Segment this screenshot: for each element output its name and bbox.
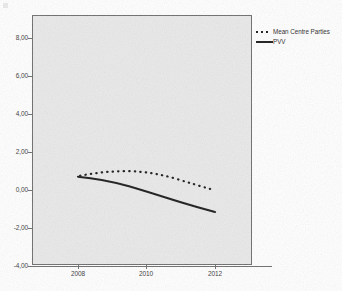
legend-label: Mean Centre Parties <box>273 27 330 36</box>
y-tick-label: 0,00 <box>16 186 28 194</box>
dotted-line-key-icon <box>256 27 273 36</box>
y-tick-label: -4,00 <box>14 262 28 270</box>
line-chart: 8,00 6,00 4,00 2,00 0,00 -2,00 -4,00 200… <box>0 0 342 291</box>
x-axis-ticks <box>79 265 216 269</box>
y-tick-2: 2,00 <box>2 148 28 156</box>
y-tick-label: 8,00 <box>16 34 28 42</box>
y-tick-minus-2: -2,00 <box>2 224 28 232</box>
y-tick-label: 2,00 <box>16 148 28 156</box>
x-tick-2008: 2008 <box>63 270 93 278</box>
y-tick-4: 4,00 <box>2 110 28 118</box>
y-tick-label: 6,00 <box>16 72 28 80</box>
legend-label: PVV <box>273 37 285 46</box>
x-tick-2012: 2012 <box>200 270 230 278</box>
legend-item-mean-centre-parties: Mean Centre Parties <box>256 27 342 36</box>
y-tick-8: 8,00 <box>2 34 28 42</box>
y-tick-label: -2,00 <box>14 224 28 232</box>
y-tick-6: 6,00 <box>2 72 28 80</box>
plot-area <box>32 15 252 265</box>
x-tick-2010: 2010 <box>131 270 161 278</box>
solid-line-key-icon <box>256 37 273 46</box>
y-tick-0: 0,00 <box>2 186 28 194</box>
y-tick-label: 4,00 <box>16 110 28 118</box>
scan-artifact-mark <box>3 3 8 8</box>
y-tick-minus-4: -4,00 <box>2 262 28 270</box>
legend-item-pvv: PVV <box>256 37 342 46</box>
chart-legend: Mean Centre Parties PVV <box>256 27 342 47</box>
